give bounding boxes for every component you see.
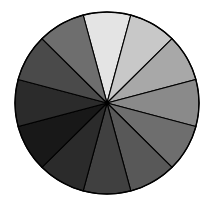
grayscale-color-wheel-figure [0, 0, 212, 206]
pie-slice-group [15, 12, 199, 194]
pie-chart-svg [0, 0, 212, 206]
